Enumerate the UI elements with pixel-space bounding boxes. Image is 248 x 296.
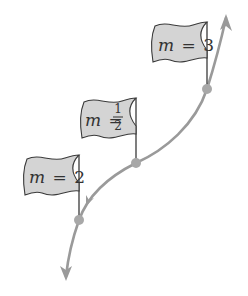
flag-numerator: 1	[114, 102, 122, 116]
slope-flags-diagram: m = 3 m = 1 2 m = 2	[0, 0, 248, 296]
arrowhead-top-icon	[220, 14, 232, 31]
flag-slope-half: m = 1 2	[80, 98, 136, 163]
flag-slope-2: m = 2	[23, 155, 85, 220]
svg-text:m = 3: m = 3	[158, 35, 214, 55]
point-slope-3	[202, 84, 212, 94]
flag-variable: m	[158, 35, 174, 55]
point-slope-2	[74, 215, 84, 225]
flag-equals: =	[182, 35, 196, 55]
flag-variable: m	[85, 110, 101, 130]
flag-equals: =	[53, 167, 67, 187]
flag-value: 3	[203, 35, 214, 55]
svg-text:m = 2: m = 2	[29, 167, 85, 187]
flag-slope-3: m = 3	[151, 22, 214, 89]
flag-variable: m	[29, 167, 45, 187]
flag-value: 2	[74, 167, 85, 187]
flag-denominator: 2	[114, 119, 122, 133]
point-slope-half	[131, 158, 141, 168]
